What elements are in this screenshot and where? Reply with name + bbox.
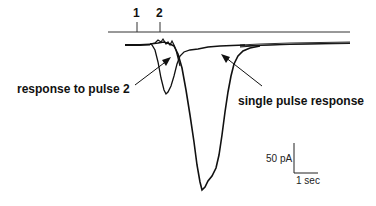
annotation-response-pulse2: response to pulse 2 (17, 82, 130, 96)
scale-time-label: 1 sec (296, 175, 320, 186)
arrow-pulse2 (135, 60, 168, 85)
scale-current-label: 50 pA (266, 153, 292, 164)
marker-2-label: 2 (156, 6, 163, 20)
annotation-single-pulse: single pulse response (238, 94, 364, 108)
trace-response-pulse2 (150, 44, 245, 94)
marker-1-label: 1 (133, 6, 140, 20)
